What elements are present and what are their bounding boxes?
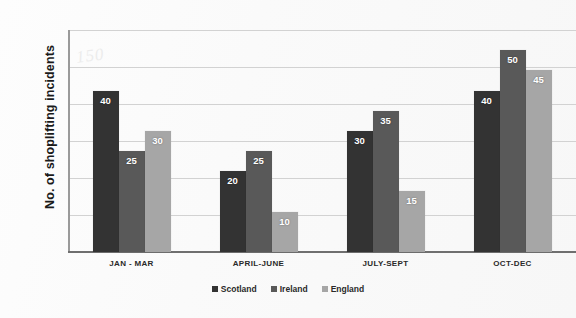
bar-group: 402530 [93,30,171,252]
bar[interactable]: 40 [474,91,500,252]
bar-value-label: 10 [272,216,298,227]
bar-group: 303515 [347,30,425,252]
bar-value-label: 30 [347,135,373,146]
legend-swatch-icon [271,286,277,292]
bar-group: 405045 [474,30,552,252]
legend-swatch-icon [212,286,218,292]
plot-area: 402530202510303515405045 [68,30,576,252]
bar[interactable]: 15 [399,191,425,252]
bar-value-label: 40 [93,95,119,106]
bar[interactable]: 40 [93,91,119,252]
legend-item[interactable]: England [322,284,365,294]
legend-item[interactable]: Ireland [271,284,308,294]
bar-value-label: 50 [500,54,526,65]
bar-value-label: 25 [246,155,272,166]
bar[interactable]: 25 [246,151,272,252]
y-axis-title: No. of shoplifting incidents [43,17,57,237]
x-axis-label: APRIL-JUNE [204,259,314,268]
legend-label: Scotland [221,284,257,294]
bar[interactable]: 30 [145,131,171,252]
bar-value-label: 15 [399,195,425,206]
bars-layer: 402530202510303515405045 [68,30,576,252]
bar-value-label: 40 [474,95,500,106]
bar-group: 202510 [220,30,298,252]
bar[interactable]: 20 [220,171,246,252]
legend-label: England [331,284,365,294]
bar-value-label: 45 [526,74,552,85]
bar-value-label: 20 [220,175,246,186]
x-axis-label: JAN - MAR [77,259,187,268]
bar[interactable]: 35 [373,111,399,252]
chart-legend: ScotlandIrelandEngland [0,284,576,294]
x-axis-label: JULY-SEPT [331,259,441,268]
bar-chart: No. of shoplifting incidents 40253020251… [0,0,576,318]
bar-value-label: 30 [145,135,171,146]
bar-value-label: 25 [119,155,145,166]
bar[interactable]: 10 [272,212,298,252]
bar[interactable]: 50 [500,50,526,252]
legend-label: Ireland [280,284,308,294]
bar-value-label: 35 [373,115,399,126]
x-axis-category-labels: JAN - MARAPRIL-JUNEJULY-SEPTOCT-DEC [68,259,576,268]
legend-item[interactable]: Scotland [212,284,257,294]
bar[interactable]: 45 [526,70,552,252]
legend-swatch-icon [322,286,328,292]
x-axis-label: OCT-DEC [458,259,568,268]
bar[interactable]: 30 [347,131,373,252]
bar[interactable]: 25 [119,151,145,252]
